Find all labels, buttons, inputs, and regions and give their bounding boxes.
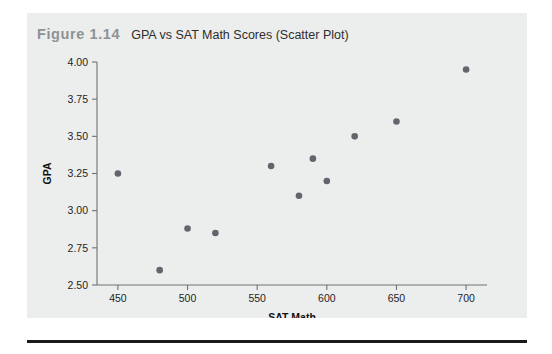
data-point <box>351 133 358 140</box>
data-point <box>115 170 122 177</box>
y-axis-tick-label: 3.00 <box>68 204 89 216</box>
y-axis-tick-label: 3.25 <box>68 167 89 179</box>
data-point <box>393 118 400 125</box>
y-axis-tick-label: 4.00 <box>68 56 89 68</box>
y-axis: 2.502.753.003.253.503.754.00 <box>68 56 97 291</box>
y-axis-title: GPA <box>41 162 53 184</box>
figure-panel: Figure 1.14GPA vs SAT Math Scores (Scatt… <box>27 13 527 318</box>
data-point <box>296 193 303 200</box>
x-axis-tick-label: 450 <box>109 292 127 304</box>
data-points <box>115 66 470 273</box>
x-axis-tick-label: 600 <box>318 292 336 304</box>
y-axis-tick-label: 3.50 <box>68 130 89 142</box>
y-axis-tick-label: 2.75 <box>68 242 89 254</box>
x-axis-tick-label: 700 <box>457 292 475 304</box>
x-axis-tick-label: 650 <box>388 292 406 304</box>
x-axis: 450500550600650700 <box>97 285 487 304</box>
scatter-plot: 2.502.753.003.253.503.754.00 45050055060… <box>27 13 527 318</box>
data-point <box>463 66 470 73</box>
data-point <box>184 225 191 232</box>
bottom-divider <box>27 340 527 343</box>
y-axis-tick-label: 3.75 <box>68 93 89 105</box>
data-point <box>268 163 275 170</box>
data-point <box>324 178 331 185</box>
data-point <box>310 155 317 162</box>
x-axis-title: SAT Math <box>268 311 316 318</box>
x-axis-tick-label: 550 <box>248 292 266 304</box>
data-point <box>212 230 219 237</box>
data-point <box>156 267 163 274</box>
y-axis-tick-label: 2.50 <box>68 279 89 291</box>
x-axis-tick-label: 500 <box>179 292 197 304</box>
